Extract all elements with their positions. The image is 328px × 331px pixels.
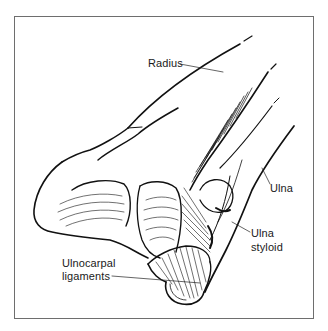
ulna-leader-line (262, 168, 270, 184)
label-ulna-styloid-line1: Ulna (251, 227, 274, 240)
ulna-bone (190, 64, 294, 292)
ulnocarpal-leader-line (112, 276, 200, 283)
radius-leader-line (180, 64, 223, 72)
label-ulna: Ulna (270, 182, 293, 195)
label-radius: Radius (148, 57, 183, 70)
ulnocarpal-ligaments (148, 246, 211, 304)
anatomy-figure: Radius Ulna Ulna styloid Ulnocarpal liga… (0, 0, 328, 331)
leader-lines (112, 64, 270, 283)
label-ulnocarpal-line2: ligaments (62, 270, 110, 283)
wrist-illustration (0, 0, 328, 331)
radius-bone (34, 36, 252, 258)
label-ulnocarpal-line1: Ulnocarpal (62, 257, 116, 270)
label-ulna-styloid-line2: styloid (251, 241, 283, 254)
